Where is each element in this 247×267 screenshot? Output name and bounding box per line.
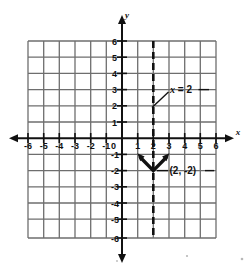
figure-background xyxy=(0,0,247,267)
equation-label-rest: = 2 xyxy=(175,84,192,95)
y-tick-label--5: -5 xyxy=(111,215,119,225)
y-tick-label--6: -6 xyxy=(111,234,119,244)
scan-speck xyxy=(186,255,188,257)
x-tick-label--6: -6 xyxy=(24,141,32,151)
y-tick-label--4: -4 xyxy=(111,199,119,209)
y-tick-label-4: 4 xyxy=(112,69,117,79)
x-tick-label--3: -3 xyxy=(71,141,79,151)
equation-label: x = 2 xyxy=(169,84,192,95)
x-tick-label--4: -4 xyxy=(55,141,63,151)
scan-speck xyxy=(116,260,118,262)
y-tick-label-5: 5 xyxy=(112,53,117,63)
x-tick-label--2: -2 xyxy=(87,141,95,151)
vertex-label: (2, -2) xyxy=(170,165,197,176)
graph-svg: -6 -5 -4 -3 -2 -1 1 2 3 4 5 6 6 5 4 3 2 … xyxy=(0,0,247,267)
scan-speck xyxy=(241,258,244,261)
x-tick-label-4: 4 xyxy=(182,141,187,151)
y-tick-label-2: 2 xyxy=(112,101,117,111)
x-tick-label-3: 3 xyxy=(166,141,171,151)
y-tick-label-1: 1 xyxy=(112,118,117,128)
x-tick-label-5: 5 xyxy=(198,141,203,151)
y-tick-label-3: 3 xyxy=(112,85,117,95)
origin-label: 0 xyxy=(111,141,116,151)
x-tick-label-6: 6 xyxy=(213,141,218,151)
x-tick-label--5: -5 xyxy=(40,141,48,151)
y-tick-label--3: -3 xyxy=(111,182,119,192)
coordinate-plane-figure: -6 -5 -4 -3 -2 -1 1 2 3 4 5 6 6 5 4 3 2 … xyxy=(0,0,247,267)
x-tick-label-1: 1 xyxy=(135,141,140,151)
x-tick-label--1: -1 xyxy=(102,141,110,151)
y-tick-label-6: 6 xyxy=(112,37,117,47)
y-tick-label--2: -2 xyxy=(111,166,119,176)
y-tick-label--1: -1 xyxy=(111,150,119,160)
x-axis-label: x xyxy=(235,127,241,137)
